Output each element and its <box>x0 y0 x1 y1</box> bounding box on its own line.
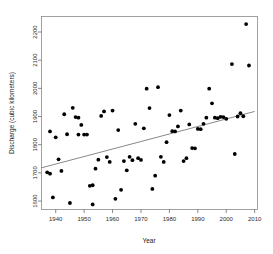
y-tick-label: 1700 <box>32 166 38 180</box>
x-tick-label: 1990 <box>191 216 205 222</box>
data-point <box>68 201 72 205</box>
x-tick-label: 2010 <box>248 216 262 222</box>
data-point <box>156 85 160 89</box>
data-point <box>153 174 157 178</box>
data-point <box>230 62 234 66</box>
data-point <box>162 160 166 164</box>
data-point <box>113 197 117 201</box>
data-point <box>59 169 63 173</box>
data-point <box>48 130 52 134</box>
y-axis-ticks: 1600170018001900200021002200 <box>32 25 41 208</box>
data-point <box>236 115 240 119</box>
data-point <box>133 122 137 126</box>
x-tick-label: 1940 <box>49 216 63 222</box>
y-tick-label: 2100 <box>32 53 38 67</box>
x-tick-label: 1960 <box>106 216 120 222</box>
data-point <box>165 140 169 144</box>
data-point <box>99 114 103 118</box>
data-point <box>122 159 126 163</box>
data-point <box>71 106 75 110</box>
data-point <box>176 124 180 128</box>
data-point <box>179 109 183 113</box>
data-point <box>94 167 98 171</box>
data-point <box>145 87 149 91</box>
x-tick-label: 2000 <box>220 216 234 222</box>
x-axis-ticks: 19401950196019701980199020002010 <box>49 210 262 222</box>
data-point <box>185 156 189 160</box>
data-point <box>142 126 146 130</box>
data-point <box>62 112 66 116</box>
data-points <box>45 22 251 206</box>
x-tick-label: 1970 <box>134 216 148 222</box>
data-point <box>187 123 191 127</box>
data-point <box>207 87 211 91</box>
data-point <box>91 183 95 187</box>
data-point <box>77 116 81 120</box>
data-point <box>239 111 243 115</box>
data-point <box>167 113 171 117</box>
data-point <box>128 155 132 159</box>
scatter-plot: 1600170018001900200021002200 19401950196… <box>0 0 273 254</box>
data-point <box>77 133 81 137</box>
data-point <box>105 155 109 159</box>
data-point <box>108 160 112 164</box>
data-point <box>91 203 95 207</box>
y-tick-label: 2000 <box>32 81 38 95</box>
data-point <box>202 122 206 126</box>
data-point <box>116 128 120 132</box>
data-point <box>150 187 154 191</box>
plot-frame <box>42 17 258 210</box>
y-tick-label: 2200 <box>32 25 38 39</box>
data-point <box>199 127 203 131</box>
data-point <box>233 152 237 156</box>
data-point <box>247 64 251 68</box>
trend-line <box>42 111 255 167</box>
data-point <box>79 123 83 127</box>
data-point <box>125 168 129 172</box>
data-point <box>48 172 52 176</box>
data-point <box>204 116 208 120</box>
data-point <box>57 157 61 161</box>
y-tick-label: 1900 <box>32 109 38 123</box>
data-point <box>210 101 214 105</box>
data-point <box>173 130 177 134</box>
y-tick-label: 1600 <box>32 194 38 208</box>
x-tick-label: 1980 <box>163 216 177 222</box>
data-point <box>85 133 89 137</box>
data-point <box>193 146 197 150</box>
data-point <box>241 114 245 118</box>
data-point <box>54 135 58 139</box>
data-point <box>148 106 152 110</box>
chart-figure: 1600170018001900200021002200 19401950196… <box>0 0 273 254</box>
data-point <box>96 158 100 162</box>
y-tick-label: 1800 <box>32 137 38 151</box>
data-point <box>102 110 106 114</box>
y-axis-title: Discharge (cubic kilometers) <box>8 72 16 154</box>
x-tick-label: 1950 <box>77 216 91 222</box>
x-axis-title: Year <box>142 237 156 244</box>
data-point <box>119 188 123 192</box>
data-point <box>224 117 228 121</box>
data-point <box>131 158 135 162</box>
data-point <box>65 132 69 136</box>
data-point <box>244 22 248 26</box>
data-point <box>139 158 143 162</box>
data-point <box>182 159 186 163</box>
trend-line-segment <box>42 111 255 167</box>
data-point <box>159 155 163 159</box>
data-point <box>51 195 55 199</box>
data-point <box>111 109 115 113</box>
